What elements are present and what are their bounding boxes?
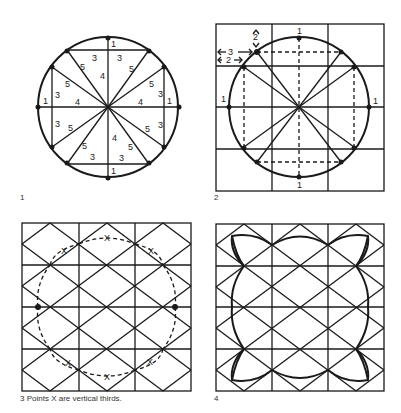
svg-text:4: 4: [75, 97, 80, 107]
svg-text:4: 4: [112, 133, 117, 143]
svg-text:3: 3: [158, 89, 163, 99]
svg-text:5: 5: [82, 141, 87, 151]
panel-2: 2 3 2 1 1 1 1 2: [214, 24, 384, 202]
svg-text:5: 5: [129, 64, 134, 74]
svg-text:5: 5: [65, 79, 70, 89]
svg-text:X: X: [104, 233, 110, 243]
svg-text:1: 1: [111, 39, 116, 49]
svg-text:5: 5: [128, 142, 133, 152]
svg-text:1: 1: [297, 180, 302, 190]
panel-1-number: 1: [20, 193, 25, 202]
panel-1: 1 3 3 5 5 4 5 5 3 3 1 1 4 4 3 3 5 5 4 5 …: [20, 36, 182, 203]
svg-text:3: 3: [55, 90, 60, 100]
svg-text:X: X: [104, 372, 110, 382]
svg-text:3: 3: [90, 152, 95, 162]
svg-text:3: 3: [119, 153, 124, 163]
svg-text:5: 5: [149, 79, 154, 89]
svg-text:2: 2: [226, 55, 231, 65]
svg-text:X: X: [147, 357, 153, 367]
svg-text:4: 4: [100, 71, 105, 81]
svg-text:4: 4: [138, 97, 143, 107]
svg-text:1: 1: [43, 96, 48, 106]
svg-text:3: 3: [92, 53, 97, 63]
panel-4-number: 4: [214, 394, 219, 403]
svg-text:X: X: [61, 246, 67, 256]
panel-2-number: 2: [214, 193, 219, 202]
panel-3: X X X X X X 3 Points X are vertical thir…: [20, 223, 191, 403]
svg-text:3: 3: [55, 119, 60, 129]
svg-text:2: 2: [253, 32, 258, 42]
svg-text:5: 5: [145, 124, 150, 134]
svg-text:X: X: [65, 358, 71, 368]
svg-text:5: 5: [80, 62, 85, 72]
panel-3-caption: 3 Points X are vertical thirds.: [20, 394, 122, 403]
svg-text:1: 1: [111, 166, 116, 176]
svg-text:1: 1: [167, 96, 172, 106]
svg-text:1: 1: [221, 94, 226, 104]
svg-text:X: X: [148, 246, 154, 256]
svg-text:3: 3: [117, 53, 122, 63]
svg-text:5: 5: [68, 123, 73, 133]
svg-text:3: 3: [158, 120, 163, 130]
svg-text:1: 1: [373, 96, 378, 106]
geometric-construction-figure: 1 3 3 5 5 4 5 5 3 3 1 1 4 4 3 3 5 5 4 5 …: [0, 0, 401, 413]
svg-text:1: 1: [297, 26, 302, 36]
panel-4: 4: [214, 224, 384, 403]
